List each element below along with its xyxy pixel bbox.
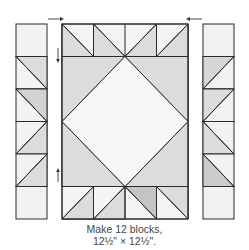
caption-instruction: Make 12 blocks, (0, 223, 249, 235)
caption-block-size: 12½" × 12½". (0, 235, 249, 247)
arrow-down-icon (56, 48, 60, 63)
arrow-left-icon (186, 17, 202, 21)
arrow-up-icon (56, 168, 60, 182)
quilt-block-assembly-diagram (0, 0, 249, 222)
left-strip (16, 24, 47, 219)
right-strip (203, 24, 234, 219)
center-unit (62, 24, 188, 219)
arrow-right-icon (48, 17, 64, 21)
